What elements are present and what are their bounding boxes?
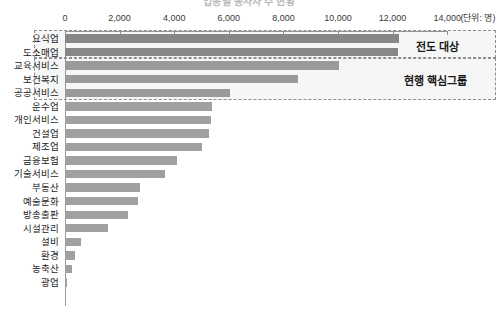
bar-18[interactable] [65,278,67,286]
bar-row: 농축산 [0,262,498,276]
bar-3[interactable] [65,75,298,83]
bar-6[interactable] [65,116,211,124]
bar-13[interactable] [65,211,128,219]
x-tick-label-0: 0 [62,12,67,24]
bar-row: 환경 [0,249,498,263]
bar-track [65,113,496,127]
bar-track [65,195,496,209]
bar-16[interactable] [65,251,75,259]
bar-row: 설비 [0,235,498,249]
bar-row: 공공서비스 [0,86,498,100]
x-tick-label-10000: 10,000 [324,12,352,24]
x-tick-label-8000: 8,000 [272,12,295,24]
category-label-16: 환경 [0,249,62,263]
bar-0[interactable] [65,34,399,42]
bar-row: 예술문화 [0,195,498,209]
bar-row: 금융보험 [0,154,498,168]
bar-track [65,208,496,222]
bar-4[interactable] [65,89,230,97]
category-label-1: 도소매업 [0,46,62,60]
category-label-8: 제조업 [0,140,62,154]
bar-track [65,276,496,290]
bar-row: 부동산 [0,181,498,195]
bar-row: 개인서비스 [0,113,498,127]
category-label-14: 시설관리 [0,222,62,236]
category-label-0: 요식업 [0,32,62,46]
bar-track [65,222,496,236]
bar-chart: 업종별 종사자 수 현황 0 2,000 4,000 6,000 8,000 1… [0,0,498,313]
bar-10[interactable] [65,170,165,178]
category-label-7: 건설업 [0,127,62,141]
category-label-5: 운수업 [0,100,62,114]
bar-track [65,100,496,114]
bar-track [65,86,496,100]
x-axis-tick-labels: 0 2,000 4,000 6,000 8,000 10,000 12,000 … [0,12,498,26]
chart-title: 업종별 종사자 수 현황 [0,0,498,7]
bar-17[interactable] [65,265,72,273]
bar-track [65,140,496,154]
bar-5[interactable] [65,102,212,110]
category-label-12: 예술문화 [0,195,62,209]
bar-row: 운수업 [0,100,498,114]
annotation-label-conversion-target: 전도 대상 [416,38,459,54]
x-tick-label-2000: 2,000 [108,12,131,24]
category-label-13: 방송출판 [0,208,62,222]
bar-15[interactable] [65,238,81,246]
bar-track [65,235,496,249]
bar-row: 제조업 [0,140,498,154]
category-label-11: 부동산 [0,181,62,195]
category-label-2: 교육서비스 [0,59,62,73]
bar-11[interactable] [65,183,140,191]
bar-2[interactable] [65,61,339,69]
bar-track [65,167,496,181]
bar-track [65,181,496,195]
bar-track [65,154,496,168]
category-label-3: 보건복지 [0,73,62,87]
category-label-18: 광업 [0,276,62,290]
category-label-17: 농축산 [0,262,62,276]
x-axis-unit-note: (단위: 명) [461,12,496,24]
bar-row: 시설관리 [0,222,498,236]
bar-9[interactable] [65,156,177,164]
category-label-9: 금융보험 [0,154,62,168]
x-tick-label-14000: 14,000 [433,12,461,24]
x-tick-label-6000: 6,000 [218,12,241,24]
x-tick-label-12000: 12,000 [379,12,407,24]
bar-14[interactable] [65,224,108,232]
annotation-label-current-core-group: 현행 핵심그룹 [404,72,467,88]
bar-track [65,262,496,276]
category-label-10: 기술서비스 [0,167,62,181]
bar-row: 기술서비스 [0,167,498,181]
category-label-15: 설비 [0,235,62,249]
bar-track [65,249,496,263]
bar-track [65,127,496,141]
bar-8[interactable] [65,143,202,151]
bar-7[interactable] [65,129,209,137]
category-label-4: 공공서비스 [0,86,62,100]
bar-row: 교육서비스 [0,59,498,73]
bar-1[interactable] [65,48,398,56]
bar-row: 건설업 [0,127,498,141]
x-tick-label-4000: 4,000 [163,12,186,24]
category-label-6: 개인서비스 [0,113,62,127]
bar-row: 광업 [0,276,498,290]
bar-row: 방송출판 [0,208,498,222]
bar-12[interactable] [65,197,138,205]
bar-track [65,59,496,73]
